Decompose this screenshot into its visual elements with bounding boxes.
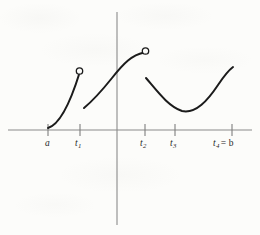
tick-label-t3: t3	[170, 139, 176, 149]
curve-segment-3	[146, 67, 233, 111]
tick-label-t1-sub: 1	[78, 142, 82, 149]
open-circle-marker-2	[142, 48, 148, 54]
tick-label-a-text: a	[45, 138, 50, 148]
curve-segment-2	[84, 53, 144, 109]
tick-label-t4: t4= b	[213, 139, 235, 149]
figure-container: a t1 t2 t3 t4= b	[0, 0, 260, 235]
tick-label-t4-sub: 4	[216, 142, 220, 149]
piecewise-function-plot	[0, 0, 260, 235]
tick-label-t4-suffix: = b	[219, 138, 234, 148]
curve-segment-1	[48, 73, 80, 128]
tick-label-t3-sub: 3	[173, 142, 177, 149]
tick-label-t2-sub: 2	[143, 142, 147, 149]
tick-label-t1: t1	[75, 139, 81, 149]
tick-label-t2: t2	[140, 139, 146, 149]
tick-label-a: a	[45, 139, 50, 149]
open-circle-marker-1	[76, 68, 82, 74]
